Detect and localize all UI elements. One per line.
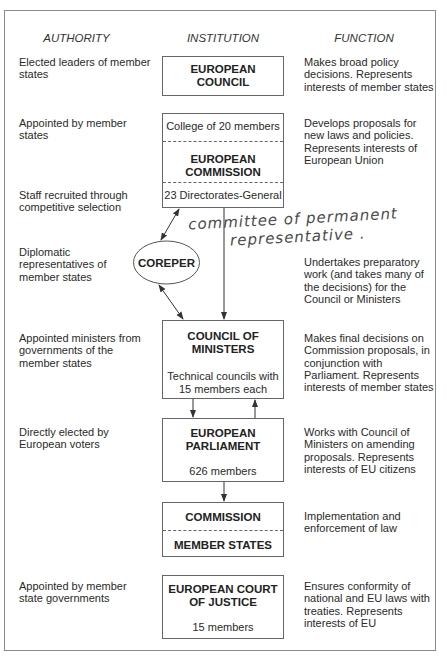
european-parliament-sub: 626 members [163, 465, 283, 478]
function-ecj: Ensures conformity of national and EU la… [304, 580, 439, 629]
council-of-ministers-sub: Technical councils with 15 members each [163, 370, 283, 395]
authority-european-council: Elected leaders of member states [19, 56, 154, 81]
authority-ecj: Appointed by member state governments [19, 580, 154, 605]
commission-directorates: 23 Directorates-General [163, 189, 283, 202]
authority-european-parliament: Directly elected by European voters [19, 426, 154, 451]
ecj-sub: 15 members [163, 621, 283, 634]
header-authority: AUTHORITY [19, 32, 134, 44]
commission-implementation-title: COMMISSION [163, 511, 283, 524]
authority-staff: Staff recruited through competitive sele… [19, 189, 154, 214]
function-european-parliament: Works with Council of Ministers on amend… [304, 426, 439, 475]
box-european-council: EUROPEAN COUNCIL [162, 56, 284, 96]
divider [163, 530, 283, 531]
header-function: FUNCTION [304, 32, 424, 44]
authority-european-commission: Appointed by member states [19, 117, 154, 142]
header-institution: INSTITUTION [162, 32, 284, 44]
function-council-of-ministers: Makes final decisions on Commission prop… [304, 332, 439, 393]
european-parliament-title: EUROPEAN PARLIAMENT [163, 427, 283, 453]
box-commission-member-states: COMMISSION MEMBER STATES [162, 502, 284, 557]
function-european-council: Makes broad policy decisions. Represents… [304, 56, 439, 93]
function-coreper: Undertakes preparatory work (and takes m… [304, 256, 439, 305]
box-european-commission: College of 20 members EUROPEAN COMMISSIO… [162, 113, 284, 208]
divider [163, 141, 283, 142]
box-european-parliament: EUROPEAN PARLIAMENT 626 members [162, 418, 284, 482]
box-council-of-ministers: COUNCIL OF MINISTERS Technical councils … [162, 320, 284, 399]
function-implementation: Implementation and enforcement of law [304, 510, 439, 535]
box-european-court-of-justice: EUROPEAN COURT OF JUSTICE 15 members [162, 575, 284, 639]
european-council-title: EUROPEAN COUNCIL [163, 63, 283, 89]
european-commission-title: EUROPEAN COMMISSION [163, 153, 283, 179]
council-of-ministers-title: COUNCIL OF MINISTERS [163, 330, 283, 356]
divider [163, 182, 283, 183]
authority-council-of-ministers: Appointed ministers from governments of … [19, 332, 154, 369]
commission-college: College of 20 members [163, 120, 283, 133]
coreper-label: COREPER [133, 241, 200, 284]
member-states-title: MEMBER STATES [163, 539, 283, 552]
function-european-commission: Develops proposals for new laws and poli… [304, 117, 439, 166]
ecj-title: EUROPEAN COURT OF JUSTICE [163, 583, 283, 609]
